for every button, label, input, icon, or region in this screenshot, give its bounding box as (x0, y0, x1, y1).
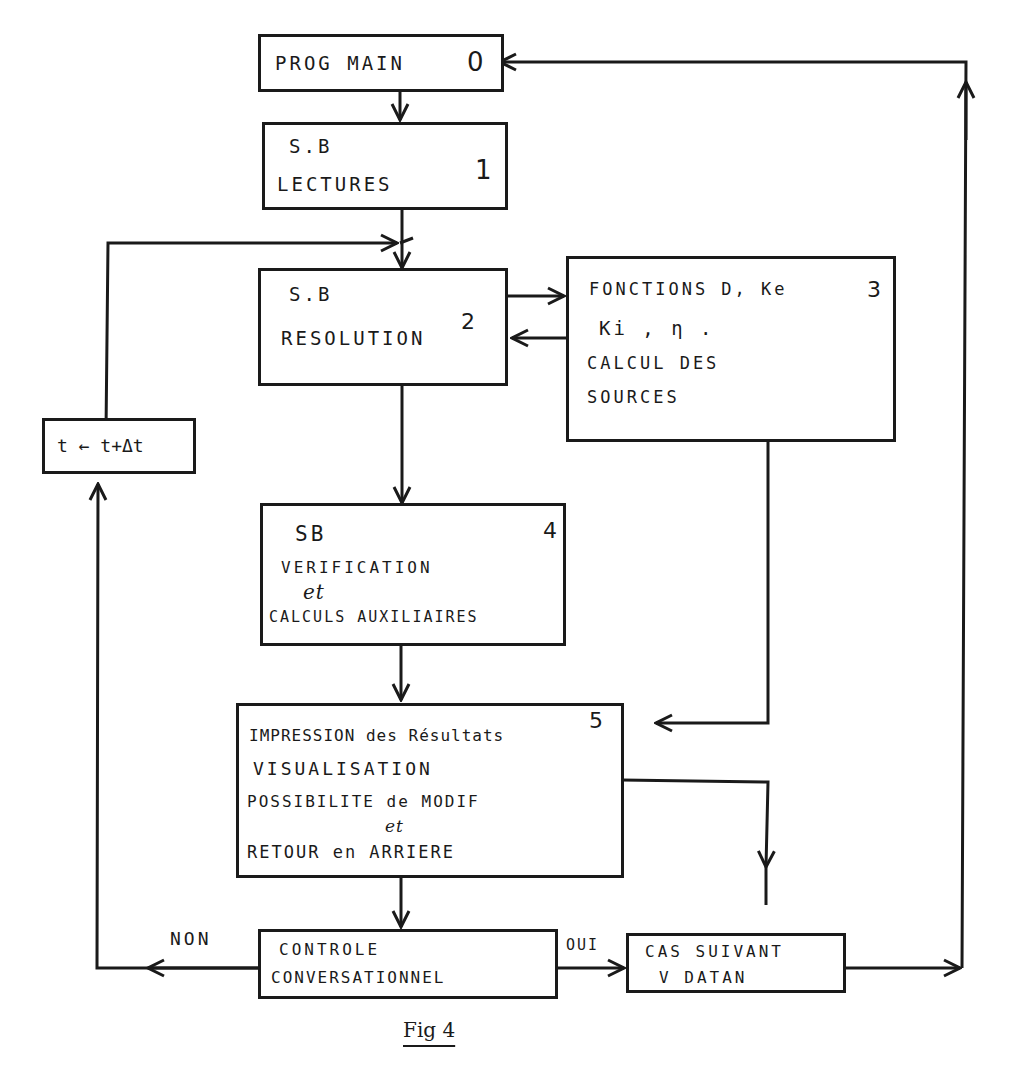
box-controle-conversationnel: CONTROLE CONVERSATIONNEL (258, 929, 558, 999)
box-3-number: 3 (867, 277, 881, 302)
box-impression-resultats: IMPRESSION des Résultats VISUALISATION P… (236, 703, 624, 878)
edge-b3-b5 (656, 442, 768, 723)
box-5-line-3: et (385, 816, 404, 836)
box-7-line-0: CAS SUIVANT (645, 942, 784, 961)
box-5-line-0: IMPRESSION des Résultats (249, 726, 504, 745)
box-3-line-1: Ki , η . (599, 317, 715, 339)
edge-b6-timestep (97, 484, 258, 968)
box-verification: SB VERIFICATION et CALCULS AUXILIAIRES 4 (260, 503, 566, 646)
box-2-line-0: S.B (289, 283, 332, 305)
box-2-number: 2 (461, 309, 475, 334)
edge-b5-b7 (622, 780, 768, 867)
box-0-number: 0 (467, 47, 484, 77)
label-oui: OUI (566, 936, 599, 954)
box-7-line-1: V DATAN (659, 968, 747, 987)
time-step-line-0: t ← t+Δt (57, 435, 144, 456)
box-4-number: 4 (543, 518, 557, 543)
box-1-line-0: S.B (289, 135, 332, 157)
box-6-line-1: CONVERSATIONNEL (271, 968, 446, 987)
box-4-line-1: VERIFICATION (281, 558, 433, 577)
box-3-line-2: CALCUL DES (587, 353, 719, 373)
box-4-line-3: CALCULS AUXILIAIRES (269, 608, 479, 626)
box-0-line-0: PROG MAIN (275, 52, 405, 74)
figure-caption: Fig 4 (403, 1018, 455, 1042)
box-resolution: S.B RESOLUTION 2 (258, 268, 508, 386)
box-time-step: t ← t+Δt (42, 418, 196, 474)
flowchart-canvas: PROG MAIN 0 S.B LECTURES 1 S.B RESOLUTIO… (0, 0, 1014, 1066)
box-3-line-3: SOURCES (587, 387, 680, 407)
box-5-line-2: POSSIBILITE de MODIF (247, 792, 480, 811)
box-4-line-2: et (303, 580, 325, 604)
box-lectures: S.B LECTURES 1 (262, 122, 508, 210)
box-cas-suivant: CAS SUIVANT V DATAN (626, 933, 846, 993)
box-4-line-0: SB (295, 522, 326, 546)
box-2-line-1: RESOLUTION (281, 327, 425, 349)
box-5-number: 5 (589, 708, 603, 733)
box-fonctions-sources: FONCTIONS D, Ke Ki , η . CALCUL DES SOUR… (566, 256, 896, 442)
box-5-line-1: VISUALISATION (253, 758, 433, 779)
box-3-line-0: FONCTIONS D, Ke (589, 279, 788, 299)
label-non: NON (170, 928, 212, 949)
box-prog-main: PROG MAIN 0 (258, 34, 504, 92)
box-1-line-1: LECTURES (277, 173, 393, 195)
box-6-line-0: CONTROLE (279, 940, 380, 959)
box-5-line-4: RETOUR en ARRIERE (247, 842, 455, 862)
box-1-number: 1 (475, 155, 492, 185)
